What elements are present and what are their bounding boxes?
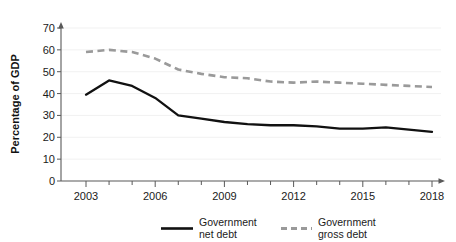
x-tick-label: 2003 [74,190,98,202]
x-tick-label: 2006 [143,190,167,202]
y-tick-label: 40 [43,88,55,100]
x-tick-label: 2018 [420,190,444,202]
y-tick-label: 60 [43,44,55,56]
x-tick-label: 2012 [281,190,305,202]
y-tick-label: 50 [43,66,55,78]
chart-figure: Percentage of GDP 010203040506070 200320… [0,0,456,242]
y-tick-label: 0 [49,175,55,187]
y-axis-label: Percentage of GDP [9,54,21,154]
legend-label-gross-debt-line1: Government [318,216,376,228]
legend-label-net-debt-line1: Government [199,216,257,228]
legend-label-gross-debt-line2: gross debt [318,228,367,240]
x-tick-label: 2015 [351,190,375,202]
y-tick-label: 10 [43,153,55,165]
y-tick-label: 20 [43,131,55,143]
y-tick-label: 70 [43,22,55,34]
y-tick-label: 30 [43,109,55,121]
legend-label-net-debt-line2: net debt [199,228,237,240]
chart-background [0,0,456,242]
line-chart: Percentage of GDP 010203040506070 200320… [0,0,456,242]
x-tick-label: 2009 [212,190,236,202]
